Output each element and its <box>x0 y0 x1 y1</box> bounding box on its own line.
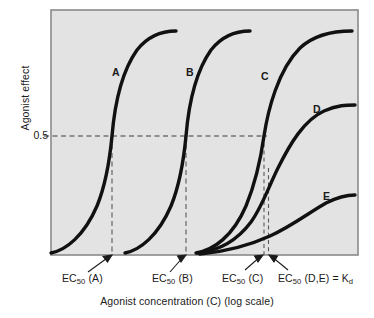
ec50-caption-a: EC50 (A) <box>62 272 103 284</box>
curve-label-d: D <box>313 103 321 115</box>
x-axis-title: Agonist concentration (C) (log scale) <box>0 295 374 307</box>
ec50-c-subscript: 50 <box>237 277 246 286</box>
dose-response-figure: Agonist effect 0.5 Agonist concentration… <box>0 0 374 318</box>
plot-canvas <box>0 0 374 318</box>
curve-label-c: C <box>261 70 269 82</box>
ec50-caption-b: EC50 (B) <box>152 272 193 284</box>
ec50-b-subscript: 50 <box>167 277 176 286</box>
plot-panel <box>51 10 358 255</box>
ec50-a-prefix: EC <box>62 272 77 284</box>
curve-label-e: E <box>323 190 330 202</box>
ec50-c-prefix: EC <box>222 272 237 284</box>
ec50-a-suffix: (A) <box>85 272 102 284</box>
curve-label-a: A <box>112 66 120 78</box>
ec50-b-prefix: EC <box>152 272 167 284</box>
ec50-arrows <box>88 255 288 272</box>
kd-subscript: d <box>349 277 353 286</box>
ec50-caption-c: EC50 (C) <box>222 272 263 284</box>
ec50-de-suffix: (D,E) = K <box>301 272 348 284</box>
y-tick-label-half: 0.5 <box>26 129 48 141</box>
ec50-b-suffix: (B) <box>175 272 192 284</box>
ec50-de-prefix: EC <box>278 272 293 284</box>
ec50-caption-de: EC50 (D,E) = Kd <box>278 272 353 284</box>
curve-label-b: B <box>186 66 194 78</box>
ec50-c-suffix: (C) <box>245 272 263 284</box>
ec50-de-subscript: 50 <box>293 277 302 286</box>
ec50-a-subscript: 50 <box>77 277 86 286</box>
